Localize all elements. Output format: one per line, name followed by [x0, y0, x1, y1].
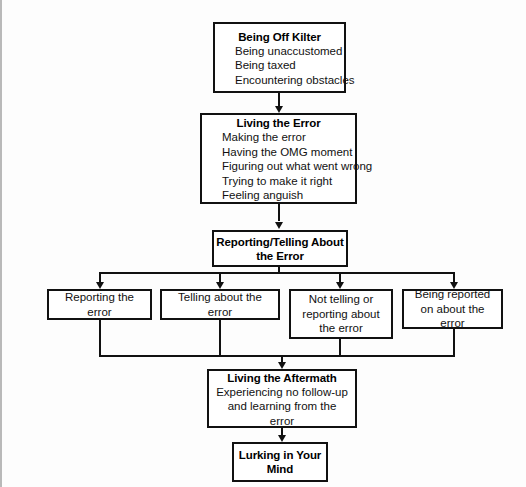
node-item-list: Being unaccustomed Being taxed Encounter… — [219, 44, 340, 88]
node-being-off-kilter: Being Off Kilter Being unaccustomed Bein… — [213, 22, 346, 93]
node-telling-about-the-error: Telling about the error — [160, 289, 280, 320]
arrowhead-icon — [336, 282, 344, 289]
node-label: Telling about the error — [162, 290, 278, 319]
node-title: Living the Aftermath — [215, 371, 349, 385]
node-label: Not telling or reporting about the error — [291, 292, 391, 336]
node-item: Encountering obstacles — [235, 73, 340, 88]
node-living-the-error: Living the Error Making the error Having… — [200, 113, 357, 204]
node-title: Being Off Kilter — [219, 30, 340, 44]
connector-kilter-to-error — [278, 93, 280, 107]
arrowhead-icon — [96, 282, 104, 289]
connector-fanout-bar — [99, 272, 455, 274]
connector-merge-bar — [99, 355, 455, 357]
node-title: Living the Error — [206, 116, 351, 130]
connector-fanin-drop-1 — [99, 320, 101, 357]
node-item: Experiencing no follow-up and learning f… — [215, 385, 349, 429]
arrowhead-icon — [275, 222, 283, 229]
node-item: Trying to make it right — [222, 174, 351, 189]
node-item: Being taxed — [235, 58, 340, 73]
connector-fanin-drop-4 — [453, 329, 455, 357]
connector-fanin-drop-2 — [219, 320, 221, 357]
node-item: Being unaccustomed — [235, 44, 340, 59]
flowchart-diagram: Being Off Kilter Being unaccustomed Bein… — [0, 0, 526, 487]
node-title: Lurking in Your Mind — [234, 448, 326, 476]
node-title: Reporting/Telling About the Error — [214, 235, 346, 263]
node-label: Being reported on about the error — [404, 287, 501, 331]
node-reporting-telling-about-the-error: Reporting/Telling About the Error — [212, 230, 348, 267]
arrowhead-icon — [275, 106, 283, 113]
node-item: Figuring out what went wrong — [222, 159, 351, 174]
arrowhead-icon — [216, 282, 224, 289]
node-item-list: Experiencing no follow-up and learning f… — [215, 385, 349, 429]
connector-error-to-reporting — [278, 204, 280, 221]
node-living-the-aftermath: Living the Aftermath Experiencing no fol… — [207, 369, 357, 428]
node-item: Feeling anguish — [222, 188, 351, 203]
node-item-list: Making the error Having the OMG moment F… — [206, 130, 351, 203]
page-edge-artifact — [0, 0, 2, 487]
node-lurking-in-your-mind: Lurking in Your Mind — [232, 442, 328, 482]
node-label: Reporting the error — [49, 290, 150, 319]
node-item: Making the error — [222, 130, 351, 145]
arrowhead-icon — [278, 362, 286, 369]
node-being-reported-on: Being reported on about the error — [402, 289, 503, 329]
arrowhead-icon — [278, 435, 286, 442]
node-reporting-the-error: Reporting the error — [47, 289, 152, 320]
node-item: Having the OMG moment — [222, 145, 351, 160]
node-not-telling-or-reporting: Not telling or reporting about the error — [289, 289, 393, 339]
